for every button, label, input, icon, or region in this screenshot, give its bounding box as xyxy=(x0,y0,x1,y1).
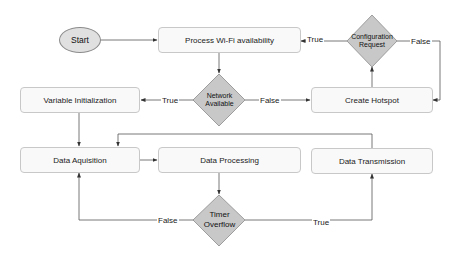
data-acquisition-label: Data Aquisition xyxy=(53,156,106,165)
timer-overflow-line2: Overflow xyxy=(204,220,236,230)
create-hotspot-label: Create Hotspot xyxy=(345,96,399,105)
edge-label-config-false: False xyxy=(410,37,432,46)
edge-timer-true xyxy=(245,174,372,220)
start-label: Start xyxy=(71,35,89,45)
timer-overflow-line1: Timer xyxy=(209,210,229,220)
edge-label-network-true: True xyxy=(161,96,179,105)
create-hotspot-node: Create Hotspot xyxy=(311,87,433,113)
network-available-text: Network Available xyxy=(194,90,245,110)
network-available-line1: Network xyxy=(207,92,233,100)
data-processing-label: Data Processing xyxy=(200,156,259,165)
process-wifi-node: Process Wi-Fi availability xyxy=(158,27,301,53)
data-transmission-node: Data Transmission xyxy=(311,148,433,174)
process-wifi-label: Process Wi-Fi availability xyxy=(185,36,274,45)
edge-label-timer-true: True xyxy=(312,218,330,227)
network-available-line2: Available xyxy=(205,100,233,108)
data-acquisition-node: Data Aquisition xyxy=(20,147,140,173)
data-transmission-label: Data Transmission xyxy=(339,157,405,166)
edge-trans-to-acq xyxy=(118,134,372,148)
config-request-line2: Request xyxy=(359,41,385,49)
config-request-line1: Configuration xyxy=(351,33,393,41)
edge-label-config-true: True xyxy=(306,35,324,44)
start-node: Start xyxy=(59,27,101,53)
variable-init-label: Variable Initialization xyxy=(44,96,117,105)
data-processing-node: Data Processing xyxy=(158,147,301,173)
timer-overflow-text: Timer Overflow xyxy=(194,209,245,231)
variable-init-node: Variable Initialization xyxy=(20,87,140,113)
config-request-text: Configuration Request xyxy=(343,31,401,51)
edge-timer-false xyxy=(79,173,194,220)
edge-label-network-false: False xyxy=(259,96,281,105)
edge-label-timer-false: False xyxy=(157,216,179,225)
